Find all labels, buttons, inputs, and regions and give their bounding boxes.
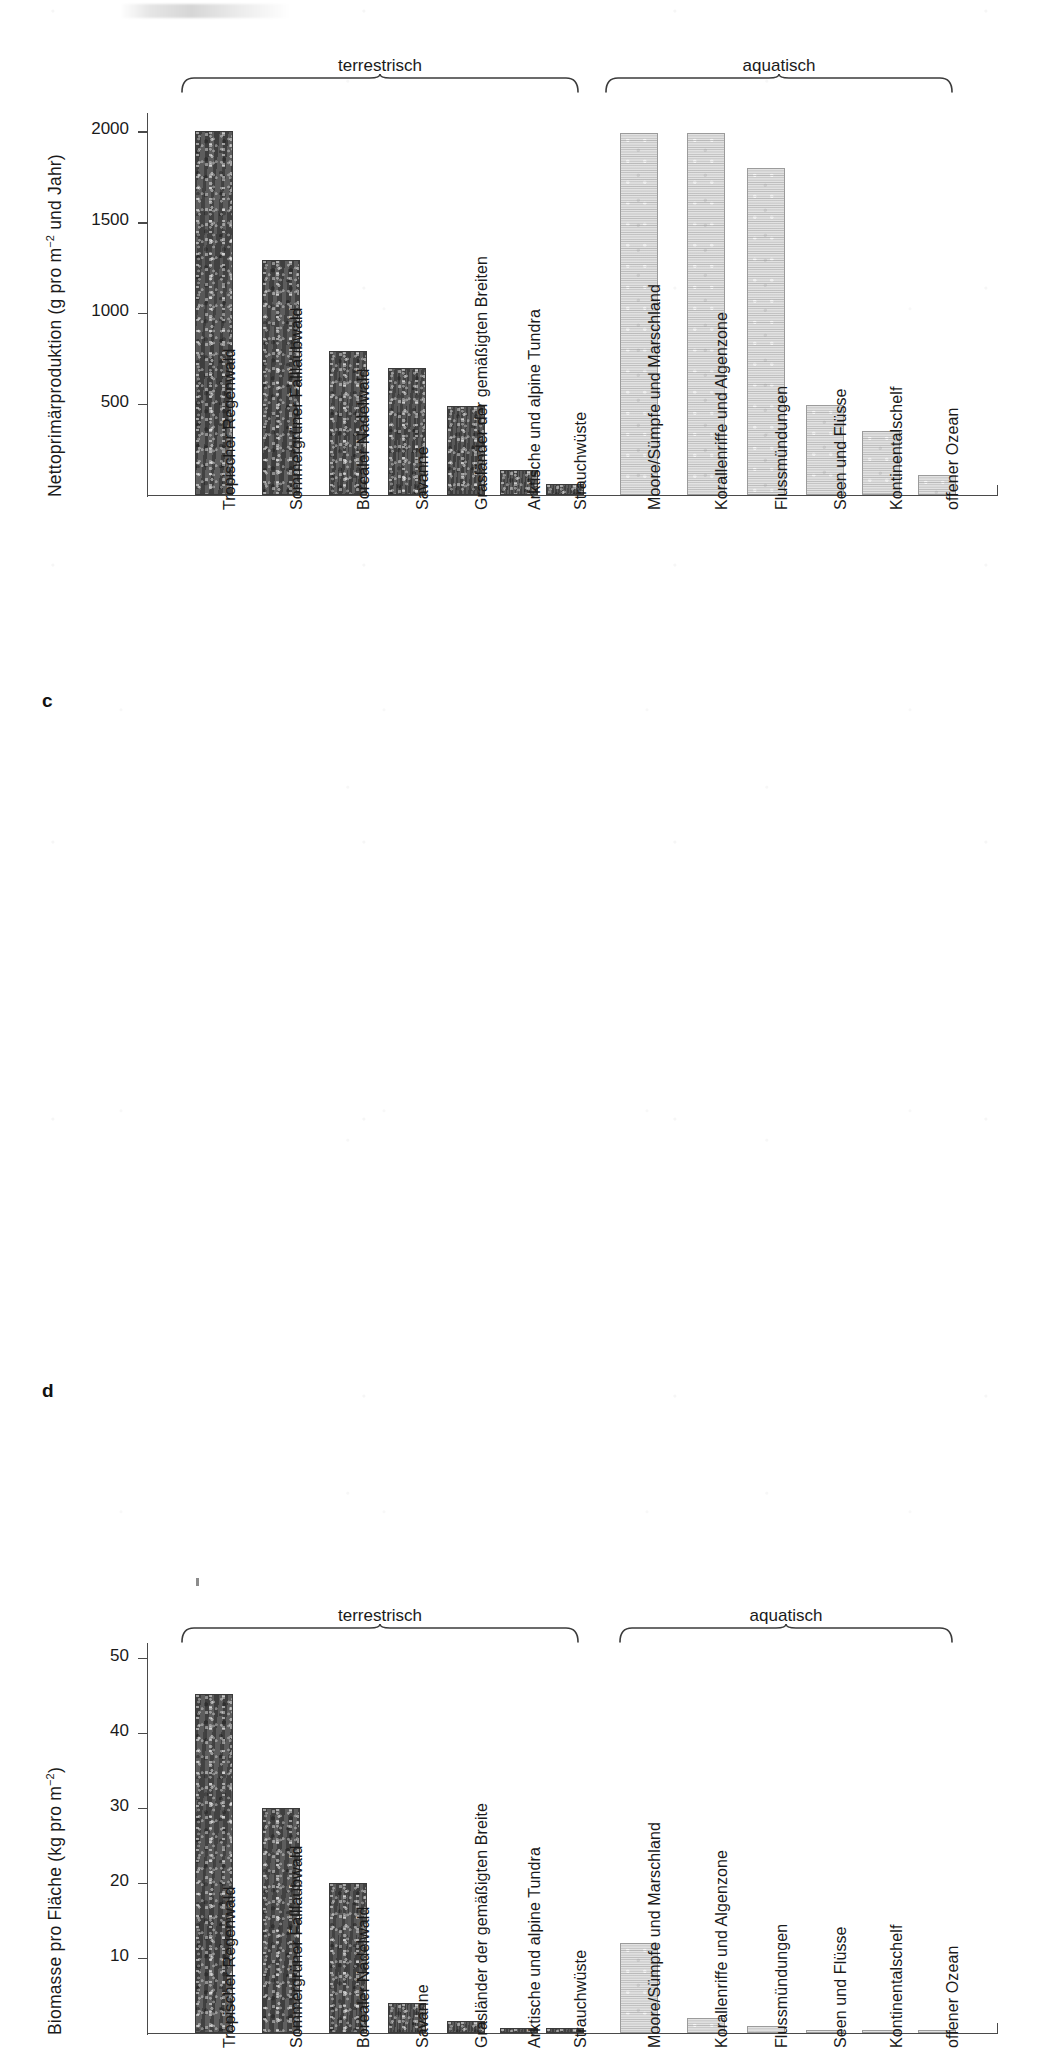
x-axis-category-label: Savanne (414, 446, 432, 510)
x-axis-category-label: Seen und Flüsse (832, 1926, 850, 2048)
x-axis-category-label: Flussmündungen (773, 386, 791, 510)
y-axis-tick (138, 1658, 147, 1659)
x-axis-category-label: Borealer Nadelwald (355, 369, 373, 510)
x-axis-category-label: offener Ozean (944, 1946, 962, 2048)
y-axis-tick-label: 50 (59, 1646, 129, 1666)
y-axis-tick-label: 20 (59, 1871, 129, 1891)
group-label-aquatic-c: aquatisch (689, 56, 869, 76)
x-axis-category-label: offener Ozean (944, 408, 962, 510)
x-axis-category-label: Moore/Sümpfe und Marschland (646, 284, 664, 510)
y-axis-tick-label: 500 (59, 392, 129, 412)
x-axis-end-cap (997, 2023, 998, 2034)
x-axis-category-label: Korallenriffe und Algenzone (713, 312, 731, 510)
group-brace-aquatic-c (604, 74, 954, 94)
x-axis-category-label: Arktische und alpine Tundra (526, 1847, 544, 2048)
y-axis-line (147, 113, 148, 497)
x-axis-category-label: Grasländer der gemäßigten Breiten (473, 256, 491, 510)
x-axis-category-label: Kontinentalschelf (888, 386, 906, 510)
group-label-aquatic-d: aquatisch (696, 1606, 876, 1626)
x-axis-category-label: Sommergrüner Falllaubwald (288, 307, 306, 510)
panel-letter-d: d (42, 1380, 54, 1402)
x-axis-category-label: Korallenriffe und Algenzone (713, 1850, 731, 2048)
y-axis-tick (138, 404, 147, 405)
x-axis-category-label: Tropischer Regenwald (221, 349, 239, 510)
y-axis-tick-label: 1000 (59, 301, 129, 321)
x-axis-category-label: Kontinentalschelf (888, 1924, 906, 2048)
x-axis-category-label: Borealer Nadelwald (355, 1907, 373, 2048)
group-label-terrestrial-d: terrestrisch (290, 1606, 470, 1626)
x-axis-category-label: Flussmündungen (773, 1924, 791, 2048)
y-axis-tick (138, 313, 147, 314)
y-axis-tick (138, 1808, 147, 1809)
y-axis-tick-label: 40 (59, 1721, 129, 1741)
chart-panel-d: Biomasse pro Fläche (kg pro m−2) terrest… (0, 800, 1037, 1621)
y-axis-tick (138, 1883, 147, 1884)
x-axis-category-label: Tropischer Regenwald (221, 1887, 239, 2048)
x-axis-category-label: Strauchwüste (572, 1950, 590, 2048)
x-axis-end-cap (997, 485, 998, 496)
chart-panel-c: Nettoprimärproduktion (g pro m−2 und Jah… (0, 0, 1037, 800)
y-axis-tick-label: 2000 (59, 119, 129, 139)
y-axis-tick (138, 1958, 147, 1959)
x-axis-category-label: Moore/Sümpfe und Marschland (646, 1822, 664, 2048)
group-brace-terrestrial-c (180, 74, 580, 94)
x-axis-category-label: Grasländer der gemäßigten Breite (473, 1803, 491, 2048)
y-axis-tick (138, 131, 147, 132)
x-axis-category-label: Savanne (414, 1984, 432, 2048)
group-brace-aquatic-d (618, 1624, 954, 1644)
panel-letter-c: c (42, 690, 53, 712)
group-label-terrestrial-c: terrestrisch (290, 56, 470, 76)
x-axis-category-label: Sommergrüner Falllaubwald (288, 1845, 306, 2048)
x-axis-category-label: Seen und Flüsse (832, 388, 850, 510)
y-axis-tick-label: 1500 (59, 210, 129, 230)
x-axis-category-label: Strauchwüste (572, 412, 590, 510)
y-axis-tick-label: 10 (59, 1946, 129, 1966)
x-axis-category-label: Arktische und alpine Tundra (526, 309, 544, 510)
y-axis-tick (138, 222, 147, 223)
y-axis-tick-label: 30 (59, 1796, 129, 1816)
y-axis-title-c: Nettoprimärproduktion (g pro m−2 und Jah… (44, 154, 66, 497)
y-axis-line (147, 1643, 148, 2035)
y-axis-tick (138, 1733, 147, 1734)
group-brace-terrestrial-d (180, 1624, 580, 1644)
